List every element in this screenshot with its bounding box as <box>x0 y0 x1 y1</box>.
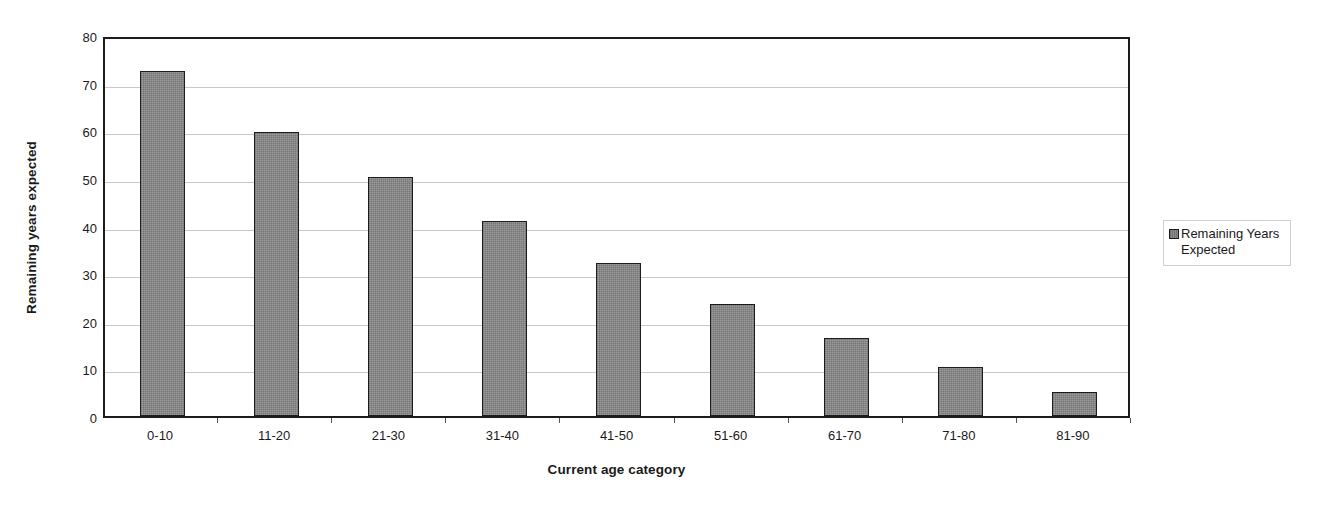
x-axis-tick-label: 0-10 <box>147 428 173 443</box>
bar-slot <box>219 39 333 416</box>
x-axis-tick-mark <box>902 418 903 423</box>
y-axis-tick-label: 40 <box>61 220 97 235</box>
x-axis-tick-mark <box>788 418 789 423</box>
bar[interactable] <box>254 132 299 416</box>
bar-slot <box>790 39 904 416</box>
y-axis-tick-label: 0 <box>61 411 97 426</box>
y-axis-tick-labels: 80706050403020100 <box>55 37 97 418</box>
bar-slot <box>904 39 1018 416</box>
y-axis-tick-label: 60 <box>61 125 97 140</box>
bar-slot <box>447 39 561 416</box>
x-axis-tick-label: 41-50 <box>600 428 633 443</box>
bar-slot <box>105 39 219 416</box>
x-axis-title: Current age category <box>103 462 1130 477</box>
plot-area <box>103 37 1130 418</box>
x-axis-tick-mark <box>445 418 446 423</box>
y-axis-tick-label: 70 <box>61 77 97 92</box>
chart-legend: Remaining Years Expected <box>1163 220 1291 266</box>
x-axis-tick-mark <box>559 418 560 423</box>
y-axis-tick-label: 10 <box>61 363 97 378</box>
bar[interactable] <box>482 221 527 416</box>
bar-chart-figure: Remaining years expected 807060504030201… <box>0 0 1343 506</box>
bar-slot <box>1018 39 1132 416</box>
bar-slot <box>561 39 675 416</box>
x-axis-tick-mark <box>331 418 332 423</box>
x-axis-tick-label: 11-20 <box>258 428 290 443</box>
y-axis-tick-label: 80 <box>61 30 97 45</box>
bar-slot <box>676 39 790 416</box>
bar[interactable] <box>824 338 869 416</box>
x-axis-tick-marks <box>103 418 1130 424</box>
x-axis-tick-label: 71-80 <box>942 428 975 443</box>
x-axis-tick-mark <box>217 418 218 423</box>
x-axis-tick-label: 31-40 <box>486 428 519 443</box>
x-axis-tick-label: 61-70 <box>828 428 861 443</box>
bar[interactable] <box>596 263 641 416</box>
x-axis-tick-label: 81-90 <box>1056 428 1089 443</box>
y-axis-tick-label: 20 <box>61 315 97 330</box>
bar-slot <box>333 39 447 416</box>
legend-swatch-icon <box>1169 229 1179 239</box>
y-axis-tick-label: 50 <box>61 172 97 187</box>
x-axis-tick-mark <box>674 418 675 423</box>
x-axis-tick-mark <box>1130 418 1131 423</box>
x-axis-tick-label: 21-30 <box>372 428 405 443</box>
bar[interactable] <box>1052 392 1097 416</box>
legend-label: Remaining Years Expected <box>1181 226 1284 258</box>
bar[interactable] <box>140 71 185 416</box>
y-axis-title: Remaining years expected <box>22 37 40 418</box>
bar[interactable] <box>368 177 413 416</box>
bar[interactable] <box>938 367 983 416</box>
bars-layer <box>105 39 1128 416</box>
x-axis-tick-mark <box>1016 418 1017 423</box>
y-axis-tick-label: 30 <box>61 268 97 283</box>
x-axis-tick-label: 51-60 <box>714 428 747 443</box>
x-axis-tick-labels: 0-1011-2021-3031-4041-5051-6061-7071-808… <box>103 428 1130 450</box>
bar[interactable] <box>710 304 755 416</box>
